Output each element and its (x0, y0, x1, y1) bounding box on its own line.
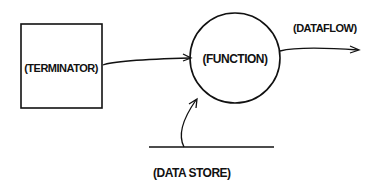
function-node: (FUNCTION) (190, 13, 280, 103)
datastore-node: (DATA STORE) (149, 147, 274, 180)
function-label: (FUNCTION) (203, 52, 268, 66)
terminator-to-function-arrow (103, 54, 191, 65)
datastore-to-function-arrow (181, 99, 197, 147)
terminator-label: (TERMINATOR) (24, 62, 98, 74)
dfd-canvas: (TERMINATOR) (FUNCTION) (DATAFLOW) (DATA… (0, 0, 383, 192)
datastore-label: (DATA STORE) (153, 166, 231, 180)
dataflow-label: (DATAFLOW) (293, 22, 357, 34)
dataflow-arrow: (DATAFLOW) (280, 22, 359, 53)
terminator-node: (TERMINATOR) (21, 24, 102, 108)
